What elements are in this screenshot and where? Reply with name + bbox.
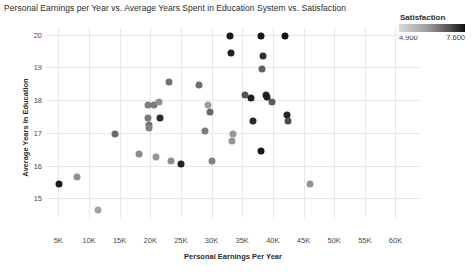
y-tick-label: 18 [28,96,42,105]
y-tick-label: 20 [28,30,42,39]
scatter-point[interactable] [146,124,153,131]
x-tick-label: 60K [389,236,402,245]
x-tick-label: 40K [266,236,279,245]
scatter-point[interactable] [282,33,289,40]
scatter-point[interactable] [202,128,209,135]
grid-line-vertical [89,28,90,218]
scatter-point[interactable] [153,154,160,161]
x-axis-title: Personal Earnings Per Year [46,252,420,261]
x-tick-label: 35K [236,236,249,245]
y-tick-label: 17 [28,128,42,137]
x-tick-label: 15K [113,236,126,245]
x-tick-label: 20K [144,236,157,245]
x-tick-label: 30K [205,236,218,245]
scatter-point[interactable] [157,115,164,122]
legend-max-label: 7.600 [446,33,465,42]
scatter-point[interactable] [257,33,264,40]
scatter-point[interactable] [177,160,184,167]
grid-line-vertical [58,28,59,218]
scatter-plot-area [46,28,420,218]
scatter-point[interactable] [136,151,143,158]
scatter-point[interactable] [208,157,215,164]
grid-line-vertical [334,28,335,218]
scatter-point[interactable] [247,95,254,102]
scatter-point[interactable] [306,180,313,187]
scatter-point[interactable] [196,82,203,89]
scatter-point[interactable] [284,118,291,125]
y-axis-title: Average Years In Education [21,53,30,203]
grid-line-horizontal [46,198,420,199]
scatter-point[interactable] [229,138,236,145]
legend-title: Satisfaction [400,13,469,22]
grid-line-vertical [365,28,366,218]
scatter-point[interactable] [226,33,233,40]
x-axis-ticks: 5K10K15K20K25K30K35K40K45K50K55K60K [46,236,420,248]
grid-line-horizontal [46,166,420,167]
scatter-point[interactable] [168,157,175,164]
scatter-point[interactable] [156,98,163,105]
x-tick-label: 55K [358,236,371,245]
scatter-point[interactable] [258,147,265,154]
x-tick-label: 25K [174,236,187,245]
scatter-point[interactable] [258,65,265,72]
x-tick-label: 45K [297,236,310,245]
x-tick-label: 50K [327,236,340,245]
scatter-point[interactable] [260,52,267,59]
grid-line-vertical [120,28,121,218]
scatter-point[interactable] [95,206,102,213]
grid-line-vertical [242,28,243,218]
grid-line-vertical [181,28,182,218]
grid-line-vertical [395,28,396,218]
x-tick-label: 10K [82,236,95,245]
grid-line-vertical [212,28,213,218]
page-title: Personal Earnings per Year vs. Average Y… [4,3,346,13]
scatter-point[interactable] [250,118,257,125]
y-tick-label: 16 [28,161,42,170]
x-tick-label: 5K [54,236,63,245]
scatter-point[interactable] [228,49,235,56]
grid-line-vertical [304,28,305,218]
y-tick-label: 19 [28,63,42,72]
scatter-point[interactable] [111,131,118,138]
scatter-point[interactable] [73,174,80,181]
scatter-point[interactable] [206,108,213,115]
scatter-point[interactable] [56,180,63,187]
grid-line-horizontal [46,67,420,68]
y-tick-label: 15 [28,194,42,203]
scatter-point[interactable] [269,98,276,105]
grid-line-horizontal [46,100,420,101]
grid-line-vertical [273,28,274,218]
scatter-point[interactable] [165,79,172,86]
